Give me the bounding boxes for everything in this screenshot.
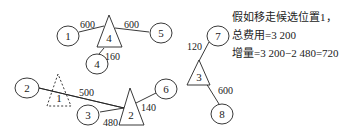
circle-4-label: 4 [94,58,100,70]
note-increment: 增量=3 200−2 480=720 [232,44,339,62]
note-total-cost: 总费用=3 200 [232,26,339,44]
edge-t4-c4 [99,48,104,54]
circle-6-label: 6 [163,83,169,95]
note-assumption: 假如移走候选位置1， [232,8,339,26]
circle-2-label: 2 [24,82,30,94]
weight-c3-t2: 480 [103,117,118,128]
edge-c3-t2 [100,108,124,112]
weight-c1-t4: 600 [80,19,95,30]
weight-c2-t2: 500 [79,87,94,98]
triangle-4-label: 4 [106,32,112,44]
circle-8-label: 8 [219,108,225,120]
circle-1-label: 1 [65,30,71,42]
weight-t3-c7: 120 [187,41,202,52]
triangle-2-label: 2 [128,109,134,121]
circle-5-label: 5 [158,27,164,39]
triangle-1-label: 1 [56,92,62,104]
circle-3-label: 3 [85,109,91,121]
weight-t3-c8: 600 [218,85,233,96]
weight-t4-c5: 600 [124,19,139,30]
calculation-notes: 假如移走候选位置1， 总费用=3 200 增量=3 200−2 480=720 [232,8,339,62]
circle-7-label: 7 [215,30,221,42]
triangle-3-label: 3 [196,71,202,83]
weight-t2-c6: 140 [141,102,156,113]
weight-t4-c4: 160 [105,51,120,62]
